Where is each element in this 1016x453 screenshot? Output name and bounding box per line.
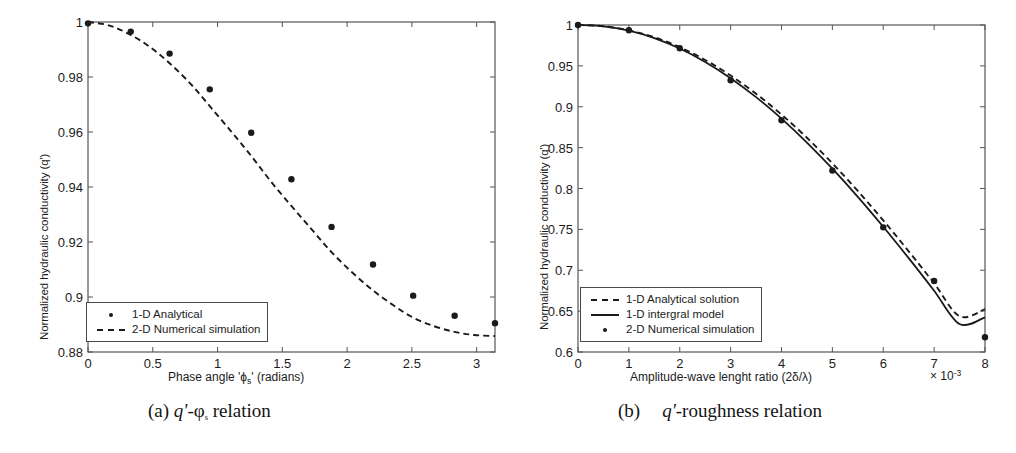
legend-label: 2-D Numerical simulation (624, 322, 754, 337)
legend-marker-dot-icon (92, 313, 130, 317)
panel-b-y-tick-label: 0.75 (548, 222, 573, 237)
panel-b-x-tick-label: 7 (931, 356, 938, 371)
caption-tail: relation (208, 400, 271, 421)
panel-b-y-tick-label: 0.9 (555, 99, 573, 114)
panel-b-x-tick-label: 1 (625, 356, 632, 371)
figure-container: Normalized hydraulic conductivity (q') P… (0, 0, 1016, 453)
panel-b-y-tick-label: 0.6 (555, 345, 573, 360)
panel-a-data-point (248, 130, 254, 136)
panel-b-x-tick-label: 2 (676, 356, 683, 371)
chart-a-legend: 1-D Analytical 2-D Numerical simulation (86, 302, 268, 342)
panel-b-data-point (727, 77, 733, 83)
panel-a-data-point (166, 50, 172, 56)
panel-b-x-tick-label: 6 (880, 356, 887, 371)
panel-a-data-point (288, 176, 294, 182)
chart-panel-a: Normalized hydraulic conductivity (q') P… (0, 0, 508, 453)
panel-b-y-tick-label: 0.7 (555, 263, 573, 278)
panel-b-y-tick-label: 0.65 (548, 304, 573, 319)
legend-item: 1-D intergral model (586, 307, 754, 322)
chart-b-caption: (b)q'-roughness relation (618, 400, 822, 422)
panel-b-x-tick-label: 5 (829, 356, 836, 371)
panel-b-x-tick-label: 8 (981, 356, 988, 371)
panel-b-y-tick-label: 0.85 (548, 140, 573, 155)
panel-a-data-point (492, 320, 498, 326)
panel-b-x-tick-label: 4 (778, 356, 785, 371)
panel-a-x-tick-label: 1.5 (273, 356, 291, 371)
multiplier-base: × 10 (930, 369, 954, 383)
panel-b-data-point (677, 45, 683, 51)
panel-a-y-tick-label: 1 (76, 15, 83, 30)
panel-b-series-line (578, 25, 985, 317)
panel-b-x-tick-label: 3 (727, 356, 734, 371)
chart-a-x-axis-title-pre: Phase angle 'ϕ (168, 370, 247, 384)
panel-b-data-point (982, 334, 988, 340)
panel-b-x-tick-label: 0 (574, 356, 581, 371)
legend-solid-line-icon (586, 314, 624, 316)
panel-a-data-point (328, 224, 334, 230)
panel-b-series-line (578, 25, 985, 325)
panel-a-data-point (85, 20, 91, 26)
panel-a-x-tick-label: 2.5 (403, 356, 421, 371)
panel-a-y-tick-label: 0.92 (58, 235, 83, 250)
panel-b-data-point (575, 22, 581, 28)
panel-a-y-tick-label: 0.98 (58, 70, 83, 85)
chart-a-x-axis-title: Phase angle 'ϕs' (radians) (168, 370, 304, 386)
legend-marker-dot-icon (586, 328, 624, 332)
legend-item: 1-D Analytical solution (586, 292, 754, 307)
legend-label: 1-D Analytical solution (624, 292, 739, 307)
legend-item: 2-D Numerical simulation (586, 322, 754, 337)
panel-a-data-point (370, 261, 376, 267)
legend-label: 2-D Numerical simulation (130, 322, 260, 337)
legend-label: 1-D intergral model (624, 307, 724, 322)
legend-dashed-line-icon (586, 299, 624, 301)
caption-rest: -φ (187, 400, 204, 421)
panel-b-y-tick-label: 0.8 (555, 181, 573, 196)
panel-a-x-tick-label: 0.5 (144, 356, 162, 371)
chart-b-plot-area (508, 0, 1016, 453)
chart-b-x-axis-title: Amplitude-wave lenght ratio (2δ/λ) (630, 370, 812, 384)
legend-item: 1-D Analytical (92, 307, 260, 322)
chart-panel-b (508, 0, 1016, 453)
panel-b-data-point (626, 27, 632, 33)
panel-a-y-tick-label: 0.96 (58, 125, 83, 140)
panel-a-y-tick-label: 0.9 (65, 290, 83, 305)
panel-b-y-tick-label: 1 (566, 18, 573, 33)
caption-prefix: (b) (618, 400, 640, 421)
panel-a-x-tick-label: 0 (84, 356, 91, 371)
legend-dashed-line-icon (92, 329, 130, 331)
chart-a-caption: (a) q'-φs relation (148, 400, 271, 422)
caption-symbol: q' (174, 400, 188, 421)
caption-prefix: (a) (148, 400, 169, 421)
panel-b-data-point (880, 224, 886, 230)
panel-b-data-point (778, 117, 784, 123)
chart-b-legend: 1-D Analytical solution 1-D intergral mo… (580, 287, 762, 342)
panel-b-y-tick-label: 0.95 (548, 58, 573, 73)
legend-label: 1-D Analytical (130, 307, 202, 322)
panel-a-x-tick-label: 1 (214, 356, 221, 371)
panel-a-data-point (207, 86, 213, 92)
panel-a-y-tick-label: 0.88 (58, 345, 83, 360)
caption-symbol: q' (662, 400, 676, 421)
caption-tail: -roughness relation (676, 400, 822, 421)
panel-a-x-tick-label: 2 (343, 356, 350, 371)
panel-b-data-point (931, 278, 937, 284)
panel-a-data-point (451, 313, 457, 319)
panel-a-data-point (410, 292, 416, 298)
panel-a-y-tick-label: 0.94 (58, 180, 83, 195)
multiplier-exponent: -3 (954, 368, 962, 378)
legend-item: 2-D Numerical simulation (92, 322, 260, 337)
chart-a-x-axis-title-post: ' (radians) (251, 370, 304, 384)
chart-a-y-axis-title: Normalized hydraulic conductivity (q') (38, 154, 50, 340)
panel-a-x-tick-label: 3 (473, 356, 480, 371)
panel-b-data-point (829, 167, 835, 173)
